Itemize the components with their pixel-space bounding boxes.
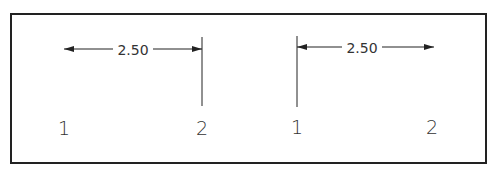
drawing-frame: [11, 14, 486, 163]
right-dimension-text: 2.50: [346, 40, 377, 56]
dimension-diagram: 2.50 1 2 2.50 1 2: [0, 0, 496, 171]
right-point-1-label: 1: [291, 116, 303, 138]
right-dimension-example: 2.50 1 2: [291, 36, 438, 138]
left-point-2-label: 2: [196, 117, 208, 139]
left-dimension-text: 2.50: [117, 42, 148, 58]
left-point-1-label: 1: [58, 117, 70, 139]
right-point-2-label: 2: [426, 116, 438, 138]
left-dimension-example: 2.50 1 2: [58, 37, 208, 139]
